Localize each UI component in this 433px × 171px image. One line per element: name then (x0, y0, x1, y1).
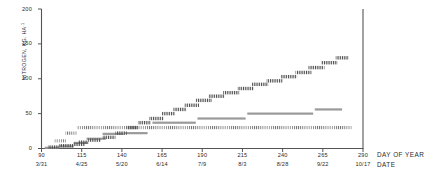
series-cumulative-step (48, 56, 349, 149)
y-tick-label: 50 (6, 110, 32, 116)
x-axis-title-day-of-year: DAY OF YEAR (377, 151, 424, 158)
x-date-label: 7/9 (186, 161, 218, 167)
x-tick-label: 190 (187, 152, 217, 158)
x-tick-label: 140 (107, 152, 137, 158)
x-tick-label: 290 (348, 152, 378, 158)
x-axis-title-date: DATE (377, 161, 395, 168)
x-date-label: 8/28 (267, 161, 299, 167)
y-axis-title: NITROGEN, KG. HA-1 (21, 0, 28, 106)
x-date-label: 6/14 (146, 161, 178, 167)
x-tick-label: 240 (268, 152, 298, 158)
y-tick-label: 0 (6, 145, 32, 151)
y-tick-label: 100 (6, 75, 32, 81)
x-tick-label: 165 (147, 152, 177, 158)
x-tick-label: 265 (308, 152, 338, 158)
x-tick-label: 90 (27, 152, 57, 158)
x-date-label: 4/25 (66, 161, 98, 167)
y-tick-label: 150 (6, 40, 32, 46)
x-tick-label: 215 (227, 152, 257, 158)
x-date-label: 5/20 (106, 161, 138, 167)
x-date-label: 10/17 (347, 161, 379, 167)
chart-plot-area (0, 0, 433, 171)
x-tick-label: 115 (67, 152, 97, 158)
x-date-label: 8/3 (226, 161, 258, 167)
y-tick-label: 200 (6, 6, 32, 12)
x-date-label: 9/22 (307, 161, 339, 167)
x-date-label: 3/31 (26, 161, 58, 167)
chart-figure: NITROGEN, KG. HA-1 200150100500 90115140… (0, 0, 433, 171)
